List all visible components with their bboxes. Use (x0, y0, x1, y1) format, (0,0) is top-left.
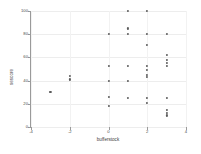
data-point (166, 114, 168, 116)
data-point (166, 59, 168, 61)
gridline-vertical (70, 11, 71, 127)
y-axis-title: sescore (10, 69, 15, 85)
data-point (166, 64, 168, 66)
x-axis-tick-label: -2 (68, 130, 72, 134)
y-axis-tick-label: 100 (21, 9, 28, 13)
data-point (49, 91, 51, 93)
x-axis-tick-label: 4 (185, 130, 187, 134)
data-point (166, 54, 168, 56)
y-axis-tick (28, 57, 31, 58)
x-axis-tick-label: -4 (29, 130, 33, 134)
plot-inner (31, 11, 186, 127)
y-axis-tick-label: 20 (23, 102, 28, 106)
x-axis-tick-label: 0 (107, 130, 109, 134)
data-point (127, 97, 129, 99)
y-axis-tick (28, 104, 31, 105)
data-point (127, 64, 129, 66)
plot-area: 020406080100-4-2024 (30, 11, 186, 128)
y-axis-tick-label: 40 (23, 78, 28, 82)
x-axis-tick-label: 2 (146, 130, 148, 134)
gridline-vertical (186, 11, 187, 127)
y-axis-tick-label: 60 (23, 55, 28, 59)
gridline-vertical (109, 11, 110, 127)
data-point (166, 109, 168, 111)
y-axis-tick-label: 0 (26, 125, 28, 129)
gridline-vertical (31, 11, 32, 127)
data-point (166, 97, 168, 99)
scatter-plot-figure: sescore 020406080100-4-2024 bufferstock (0, 0, 201, 154)
y-axis-tick-label: 80 (23, 32, 28, 36)
y-axis-tick (28, 81, 31, 82)
y-axis-tick (28, 11, 31, 12)
x-axis-title: bufferstock (30, 138, 186, 143)
data-point (127, 27, 129, 29)
y-axis-tick (28, 34, 31, 35)
